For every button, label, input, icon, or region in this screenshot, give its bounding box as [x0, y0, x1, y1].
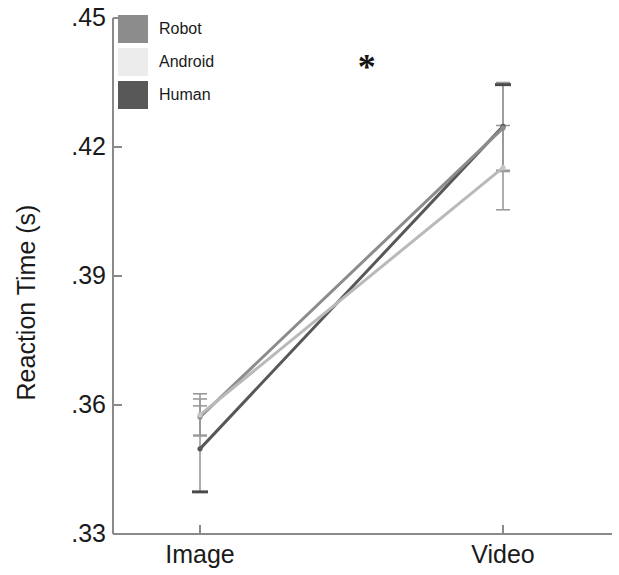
legend-swatch-android — [118, 48, 148, 76]
data-point-human-image — [197, 446, 202, 451]
legend-label-human: Human — [159, 86, 211, 104]
legend-item-human: Human — [118, 78, 238, 111]
series-line-robot — [200, 128, 503, 417]
legend-label-android: Android — [159, 53, 214, 71]
legend: Robot Android Human — [118, 12, 238, 111]
legend-item-robot: Robot — [118, 12, 238, 45]
plot-area — [0, 0, 619, 575]
legend-swatch-human — [118, 81, 148, 109]
data-point-android-video — [500, 165, 505, 170]
legend-item-android: Android — [118, 45, 238, 78]
data-point-android-image — [197, 412, 202, 417]
series-layer — [192, 83, 511, 492]
reaction-time-line-chart: Reaction Time (s) .45 .42 .39 .36 .33 Im… — [0, 0, 619, 575]
legend-swatch-robot — [118, 15, 148, 43]
data-point-robot-video — [500, 125, 505, 130]
significance-asterisk: * — [358, 49, 376, 85]
series-line-android — [200, 168, 503, 415]
series-line-human — [200, 126, 503, 449]
legend-label-robot: Robot — [159, 20, 202, 38]
